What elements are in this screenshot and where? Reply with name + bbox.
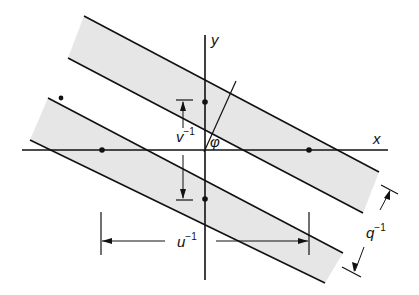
y-axis-label: y: [210, 31, 220, 48]
upper-band-shading: [68, 16, 379, 213]
lattice-point: [59, 96, 64, 101]
q-dimension-bottom-tick: [342, 267, 361, 277]
lattice-point: [99, 147, 105, 153]
lattice-plane-diagram: v−1 u−1 q−1 x y φ: [0, 0, 419, 295]
x-axis-label: x: [372, 130, 381, 147]
v-inverse-label: v−1: [176, 126, 195, 145]
q-dimension-lower-shaft: [355, 247, 364, 271]
q-inverse-label: q−1: [366, 222, 386, 241]
phi-angle-label: φ: [210, 133, 220, 150]
lattice-point: [306, 147, 312, 153]
q-dimension-up-arrow: [384, 190, 390, 200]
u-inverse-label: u−1: [177, 231, 197, 250]
lattice-point: [202, 99, 208, 105]
u-dimension-left-arrow: [102, 238, 112, 244]
lattice-point: [202, 196, 208, 202]
